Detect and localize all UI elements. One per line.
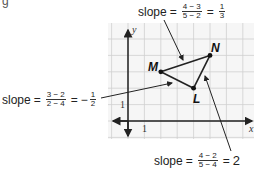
label-n: N <box>211 41 220 55</box>
slope-ml-annotation: slope = 3 − 2 2 − 4 = − 1 2 <box>2 91 98 108</box>
y-axis-label: y <box>131 24 137 35</box>
x-axis-label: x <box>248 123 254 134</box>
slope-result: 1 2 <box>90 91 96 108</box>
slope-word: slope <box>154 154 183 168</box>
point-m <box>158 69 163 74</box>
point-l <box>191 86 196 91</box>
slope-result: 1 3 <box>219 3 225 20</box>
slope-ln-annotation: slope = 4 − 2 5 − 4 = 2 <box>154 152 240 169</box>
slope-result: 2 <box>233 153 240 168</box>
x-tick-label: 1 <box>142 123 147 134</box>
label-l: L <box>193 92 200 106</box>
y-tick-label: 1 <box>120 99 125 110</box>
slope-word: slope <box>2 93 31 107</box>
slope-mn-annotation: slope = 4 − 3 5 − 2 = 1 3 <box>138 3 227 20</box>
slope-fraction: 4 − 3 5 − 2 <box>182 3 202 20</box>
label-m: M <box>148 60 159 74</box>
slope-fraction: 4 − 2 5 − 4 <box>198 152 218 169</box>
slope-fraction: 3 − 2 2 − 4 <box>46 91 66 108</box>
slope-word: slope <box>138 5 167 19</box>
